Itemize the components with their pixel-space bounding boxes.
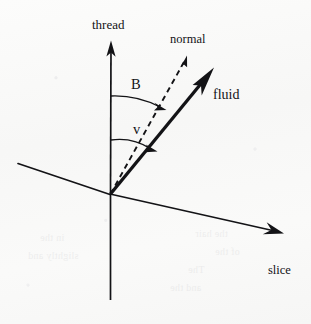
normal-vector-line [111, 62, 185, 194]
depth-axis-line [18, 164, 110, 195]
angle-v-arc-path [111, 139, 151, 149]
normal-label: normal [170, 33, 205, 46]
fluid-vector-line [111, 80, 205, 194]
angle-b-arc [111, 96, 167, 111]
angle-b-arc-path [111, 96, 160, 107]
thread-label: thread [92, 18, 124, 31]
fluid-label: fluid [213, 88, 239, 102]
angle-v-label: v [133, 122, 140, 137]
thread-axis-line [111, 46, 112, 194]
thread-axis [106, 41, 115, 195]
normal-arrowhead-icon [180, 56, 187, 68]
slice-axis-line [110, 194, 277, 232]
fluid-vector [111, 68, 215, 195]
normal-vector [111, 56, 188, 195]
angle-b-arrowhead-icon [154, 103, 167, 111]
slice-label: slice [268, 264, 291, 277]
vector-diagram [0, 0, 311, 324]
slice-axis [110, 194, 284, 234]
figure-canvas: the hair of the The and the in the sligh… [0, 0, 311, 324]
angle-b-label: B [131, 77, 141, 92]
